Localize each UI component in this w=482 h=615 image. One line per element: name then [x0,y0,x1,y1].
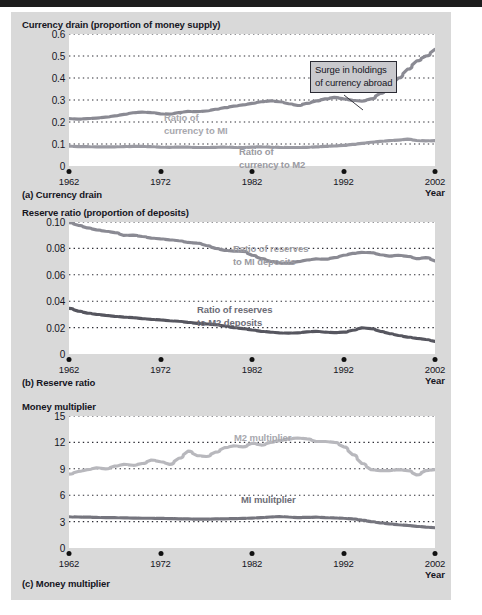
y-tick-label: 0 [15,349,65,360]
panel-b-series-label-m2: Ratio of reserves to M2 deposits [197,304,272,329]
label-line-1: Ratio of [239,146,305,159]
x-tick-label: 1982 [242,176,262,187]
y-tick-label: 9 [15,463,65,474]
series-line-2 [69,517,435,528]
x-tick-dot [250,551,255,556]
x-tick-label: 1992 [333,558,353,569]
x-tick-label: 1982 [242,364,262,375]
surge-callout-line-1: Surge in holdings [315,64,392,77]
y-tick-label: 0.6 [15,29,65,40]
y-tick-label: 0 [15,543,65,554]
y-tick-label: 0.10 [15,217,65,228]
panel-money-multiplier: Money multiplier 03691215 19621972198219… [11,394,451,600]
x-tick-label: 1992 [333,364,353,375]
y-tick-label: 0.08 [15,243,65,254]
x-tick-label: 1962 [59,364,79,375]
x-tick-dot [433,169,438,174]
x-axis-label: Year [425,375,445,386]
panel-a-series-label-m1: Ratio of currency to MI [164,112,228,137]
label-line-2: currency to MI [164,125,228,138]
y-tick-label: 0.3 [15,95,65,106]
panel-reserve-ratio: Reserve ratio (proportion of deposits) 0… [11,200,451,400]
surge-callout: Surge in holdings of currency abroad [310,61,397,93]
x-tick-label: 1962 [59,176,79,187]
panel-c-series-label-m1: MI mulitplier [241,494,296,507]
x-tick-dot [341,169,346,174]
label-line-2: to M2 deposits [197,317,272,330]
surge-callout-line-2: of currency abroad [315,77,392,90]
panel-b-series-label-m1: Ratio of reserves to MI deposits [233,243,308,268]
x-tick-label: 1972 [150,558,170,569]
chart-svg-b [69,222,435,354]
figure-container: Currency drain (proportion of money supp… [11,12,451,600]
x-tick-dot [250,357,255,362]
panel-b-caption: (b) Reserve ratio [22,377,95,388]
label-line-1: Ratio of reserves [233,243,308,256]
x-tick-label: 1982 [242,558,262,569]
y-tick-label: 0.2 [15,117,65,128]
panel-b-plot-area [69,222,435,354]
panel-c-caption: (c) Money multiplier [22,578,110,589]
panel-a-caption: (a) Currency drain [22,189,102,200]
panel-a-series-label-m2: Ratio of currency to M2 [239,146,305,171]
y-tick-label: 0.1 [15,139,65,150]
x-tick-dot [67,169,72,174]
x-tick-dot [67,551,72,556]
y-tick-label: 6 [15,490,65,501]
y-tick-label: 0.5 [15,51,65,62]
x-tick-label: 2002 [425,364,445,375]
y-tick-label: 0 [15,161,65,172]
x-axis-label: Year [425,187,445,198]
x-tick-dot [158,551,163,556]
y-tick-label: 12 [15,437,65,448]
label-line-1: Ratio of [164,112,228,125]
x-tick-dot [433,551,438,556]
scan-top-bar [0,0,482,7]
x-tick-label: 1972 [150,176,170,187]
x-tick-dot [433,357,438,362]
label-line-1: Ratio of reserves [197,304,272,317]
x-tick-dot [341,357,346,362]
x-tick-dot [341,551,346,556]
x-tick-label: 2002 [425,176,445,187]
x-tick-dot [158,169,163,174]
y-tick-label: 0.02 [15,322,65,333]
x-tick-label: 2002 [425,558,445,569]
panel-c-series-label-m2: M2 multiplier [234,432,291,445]
x-tick-dot [158,357,163,362]
y-tick-label: 15 [15,411,65,422]
y-tick-label: 0.04 [15,296,65,307]
x-tick-label: 1972 [150,364,170,375]
label-line-2: to MI deposits [233,256,308,269]
y-tick-label: 0.06 [15,269,65,280]
y-tick-label: 0.4 [15,73,65,84]
x-tick-label: 1992 [333,176,353,187]
x-axis-label: Year [425,569,445,580]
label-line-2: currency to M2 [239,159,305,172]
y-tick-label: 3 [15,516,65,527]
x-tick-label: 1962 [59,558,79,569]
x-tick-dot [67,357,72,362]
panel-currency-drain: Currency drain (proportion of money supp… [11,12,451,212]
